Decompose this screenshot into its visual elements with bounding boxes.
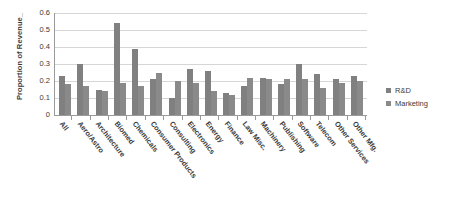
bar-group [348, 13, 366, 115]
legend-item[interactable]: R&D [386, 84, 454, 97]
bar-marketing [357, 81, 363, 115]
chart-legend: R&DMarketing [386, 84, 454, 110]
bar-group [275, 13, 293, 115]
bar-marketing [120, 83, 126, 115]
bar-group [311, 13, 329, 115]
bar-marketing [229, 95, 235, 115]
bar-marketing [193, 83, 199, 115]
bar-group [330, 13, 348, 115]
bar-group [92, 13, 110, 115]
bar-group [202, 13, 220, 115]
x-axis-category-labels: AllAero/AstroArchitectureBiomedChemicals… [54, 120, 366, 200]
bar-group [111, 13, 129, 115]
x-category-label: All [57, 120, 69, 132]
y-tick-label: 0 [46, 111, 50, 119]
bar-marketing [211, 91, 217, 115]
bar-marketing [247, 78, 253, 115]
bar-marketing [284, 79, 290, 115]
bar-marketing [65, 84, 71, 115]
bar-marketing [83, 86, 89, 115]
bar-marketing [302, 79, 308, 115]
y-tick-label: 0.4 [40, 43, 50, 51]
y-axis-tick-labels: 0.60.50.40.30.20.10 [24, 8, 50, 118]
y-tick-label: 0.6 [40, 9, 50, 17]
legend-swatch-icon [386, 101, 391, 106]
bar-group [165, 13, 183, 115]
legend-label: R&D [395, 86, 411, 95]
bar-group [257, 13, 275, 115]
y-axis-title: Proportion of Revenue_ [15, 2, 24, 112]
bar-marketing [175, 81, 181, 115]
bar-group [74, 13, 92, 115]
bar-marketing [138, 86, 144, 115]
bar-marketing [156, 73, 162, 116]
bar-group [238, 13, 256, 115]
bar-group [220, 13, 238, 115]
bar-group [147, 13, 165, 115]
bar-marketing [320, 88, 326, 115]
y-tick-label: 0.5 [40, 26, 50, 34]
bar-group [293, 13, 311, 115]
plot-area [54, 13, 367, 116]
bar-marketing [266, 79, 272, 115]
legend-label: Marketing [395, 99, 428, 108]
y-tick-label: 0.3 [40, 60, 50, 68]
y-tick-label: 0.2 [40, 77, 50, 85]
bar-group [129, 13, 147, 115]
bar-marketing [339, 83, 345, 115]
y-tick-label: 0.1 [40, 94, 50, 102]
bar-group [56, 13, 74, 115]
bar-group [184, 13, 202, 115]
legend-swatch-icon [386, 88, 391, 93]
chart-figure: Proportion of Revenue_ 0.60.50.40.30.20.… [0, 0, 455, 203]
legend-item[interactable]: Marketing [386, 97, 454, 110]
bar-groups [55, 13, 367, 115]
bar-marketing [102, 91, 108, 115]
